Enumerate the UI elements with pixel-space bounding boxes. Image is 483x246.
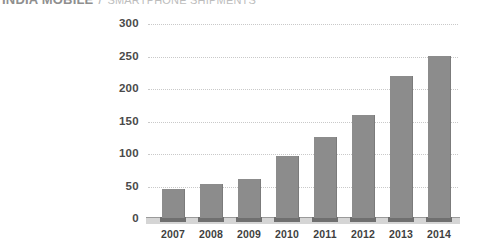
header-separator: / <box>98 0 102 7</box>
y-axis-tick-label: 0 <box>132 212 139 224</box>
header-inner: INDIA MOBILE/SMARTPHONE SHIPMENTS <box>2 0 256 8</box>
bar <box>428 56 451 218</box>
bar-group: 2012 <box>344 14 382 224</box>
x-axis-tick-label: 2014 <box>420 228 458 240</box>
bar-group: 2013 <box>382 14 420 224</box>
y-axis-tick-label: 200 <box>119 82 139 94</box>
bar <box>162 189 185 218</box>
x-axis-tick-label: 2012 <box>344 228 382 240</box>
bar-chart: 050100150200250300 200720082009201020112… <box>0 14 483 246</box>
bar-group: 2008 <box>192 14 230 224</box>
page-subtitle: SMARTPHONE SHIPMENTS <box>107 0 256 6</box>
y-axis-tick-label: 150 <box>119 115 139 127</box>
bar-series: 20072008200920102011201220132014 <box>148 14 458 224</box>
bar-group: 2011 <box>306 14 344 224</box>
header-strip: INDIA MOBILE/SMARTPHONE SHIPMENTS <box>0 0 483 9</box>
x-axis-tick-label: 2009 <box>230 228 268 240</box>
bar <box>314 137 337 218</box>
y-axis-tick-label: 250 <box>119 50 139 62</box>
y-axis-tick-label: 50 <box>126 180 139 192</box>
page-title: INDIA MOBILE <box>2 0 93 7</box>
x-axis-tick-label: 2007 <box>154 228 192 240</box>
bar <box>276 156 299 218</box>
bar-group: 2010 <box>268 14 306 224</box>
bar <box>390 76 413 218</box>
bar-group: 2009 <box>230 14 268 224</box>
y-axis-tick-label: 100 <box>119 147 139 159</box>
x-axis-tick-label: 2011 <box>306 228 344 240</box>
x-axis-tick-label: 2013 <box>382 228 420 240</box>
bar-group: 2014 <box>420 14 458 224</box>
bar <box>238 179 261 218</box>
x-axis-tick-label: 2010 <box>268 228 306 240</box>
bar <box>352 115 375 218</box>
x-axis-tick-label: 2008 <box>192 228 230 240</box>
y-axis-tick-label: 300 <box>119 17 139 29</box>
bar <box>200 184 223 218</box>
bar-group: 2007 <box>154 14 192 224</box>
